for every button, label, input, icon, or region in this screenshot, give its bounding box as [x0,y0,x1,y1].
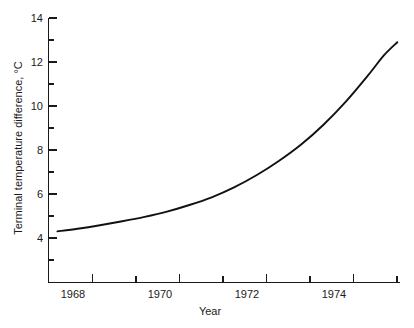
y-tick-label-8: 8 [37,144,43,156]
x-axis-title: Year [199,305,222,317]
x-tick-label-1970: 1970 [148,288,172,300]
x-tick-label-1968: 1968 [61,288,85,300]
y-tick-label-12: 12 [31,56,43,68]
x-tick-label-1972: 1972 [235,288,259,300]
y-tick-label-10: 10 [31,100,43,112]
y-axis-title: Terminal temperature difference, °C [12,61,24,235]
y-tick-label-4: 4 [37,232,43,244]
chart-figure: 14 12 10 8 6 4 1968 1970 1972 1974 Year … [0,0,414,328]
data-curve-terminal-temperature-difference [57,42,397,231]
x-tick-label-1974: 1974 [322,288,346,300]
chart-plot-area: 14 12 10 8 6 4 1968 1970 1972 1974 Year … [0,0,414,328]
y-tick-label-14: 14 [31,12,43,24]
axis-lines [49,18,400,283]
y-tick-label-6: 6 [37,188,43,200]
